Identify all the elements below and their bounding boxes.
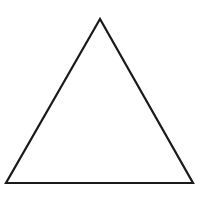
- triangle-shape: [6, 19, 193, 183]
- diagram-canvas: [0, 0, 198, 209]
- triangle-diagram: [0, 0, 198, 209]
